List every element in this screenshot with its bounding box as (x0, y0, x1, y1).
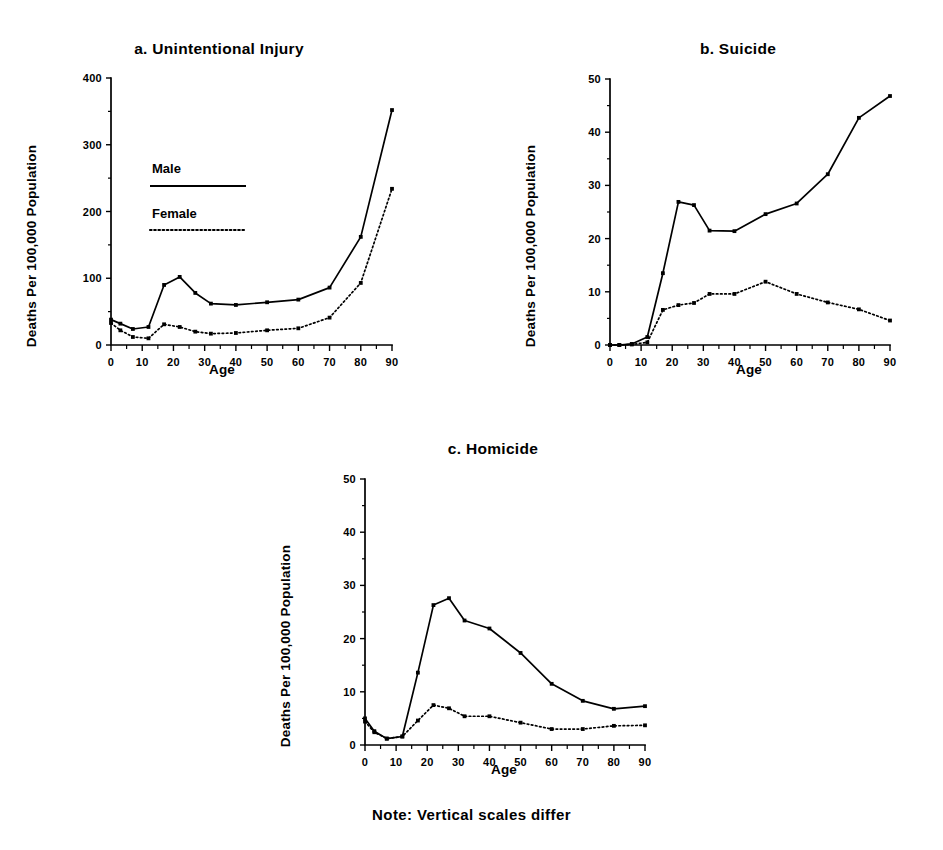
data-point-c-male-6 (447, 596, 451, 600)
plot-area-b: 010203040500102030405060708090 (588, 73, 896, 368)
y-tick-label-b-5: 50 (588, 73, 601, 85)
data-point-c-female-7 (463, 714, 467, 718)
data-point-b-male-4 (661, 271, 665, 275)
data-point-c-female-4 (416, 719, 420, 723)
x-tick-label-b-6: 60 (790, 356, 803, 368)
data-point-a-female-12 (359, 281, 363, 285)
x-tick-label-b-8: 80 (852, 356, 865, 368)
data-point-c-female-12 (612, 724, 616, 728)
data-point-c-female-6 (447, 706, 451, 710)
data-point-a-female-13 (390, 187, 394, 191)
data-point-b-female-8 (733, 292, 737, 296)
data-point-c-female-10 (550, 727, 554, 731)
data-point-b-male-9 (764, 212, 768, 216)
y-tick-label-c-4: 40 (343, 526, 356, 538)
data-point-a-female-1 (118, 328, 122, 332)
data-point-b-female-12 (857, 307, 861, 311)
data-point-a-female-6 (193, 330, 197, 334)
data-point-b-female-9 (764, 280, 768, 284)
data-point-a-female-9 (265, 328, 269, 332)
data-point-b-female-11 (826, 301, 830, 305)
x-tick-label-c-6: 60 (545, 756, 558, 768)
series-line-c-female (365, 705, 645, 739)
series-line-b-female (610, 282, 890, 345)
data-point-c-male-10 (550, 682, 554, 686)
data-point-a-male-3 (147, 325, 151, 329)
data-point-a-male-11 (328, 286, 332, 290)
x-tick-label-b-0: 0 (607, 356, 613, 368)
plot-area-a: 01002003004000102030405060708090MaleFema… (83, 72, 399, 368)
data-point-b-female-1 (617, 343, 621, 347)
y-axis-label-b: Deaths Per 100,000 Population (523, 145, 538, 347)
data-point-a-male-12 (359, 235, 363, 239)
legend-label-male: Male (152, 161, 181, 176)
data-point-c-female-8 (488, 714, 492, 718)
data-point-c-female-5 (432, 703, 436, 707)
data-point-b-female-4 (661, 308, 665, 312)
axis-lines-c (365, 479, 645, 745)
x-tick-label-b-2: 20 (666, 356, 679, 368)
plot-area-c: 010203040500102030405060708090 (343, 473, 651, 768)
data-point-a-female-8 (234, 331, 238, 335)
data-point-a-female-3 (147, 336, 151, 340)
data-point-a-male-5 (178, 275, 182, 279)
legend-label-female: Female (152, 206, 197, 221)
chart-svg-c: c. Homicide Deaths Per 100,000 Populatio… (268, 436, 688, 786)
y-tick-label-b-4: 40 (588, 126, 601, 138)
data-point-b-female-0 (608, 343, 612, 347)
chart-panel-b: b. Suicide Deaths Per 100,000 Population… (513, 36, 933, 386)
x-tick-label-a-7: 70 (323, 356, 336, 368)
x-tick-label-c-3: 30 (452, 756, 465, 768)
y-tick-label-b-0: 0 (595, 339, 601, 351)
data-point-b-female-2 (630, 343, 634, 347)
chart-title-a: a. Unintentional Injury (134, 40, 304, 57)
data-point-c-male-8 (488, 627, 492, 631)
y-tick-label-c-5: 50 (343, 473, 356, 485)
data-point-a-female-5 (178, 325, 182, 329)
chart-svg-b: b. Suicide Deaths Per 100,000 Population… (513, 36, 933, 386)
data-point-c-female-13 (643, 723, 647, 727)
y-tick-label-b-2: 20 (588, 233, 601, 245)
data-point-c-male-9 (519, 651, 523, 655)
data-point-b-female-13 (888, 319, 892, 323)
y-tick-label-a-3: 300 (83, 139, 102, 151)
data-point-a-male-13 (390, 108, 394, 112)
x-tick-label-b-5: 50 (759, 356, 772, 368)
data-point-c-female-3 (400, 735, 404, 739)
x-tick-label-a-0: 0 (108, 356, 114, 368)
data-point-a-male-9 (265, 300, 269, 304)
y-tick-label-c-2: 20 (343, 633, 356, 645)
data-point-a-female-4 (162, 322, 166, 326)
chart-svg-a: a. Unintentional Injury Deaths Per 100,0… (14, 36, 434, 386)
chart-panel-a: a. Unintentional Injury Deaths Per 100,0… (14, 36, 434, 386)
data-point-a-female-7 (209, 332, 213, 336)
x-tick-label-c-1: 10 (390, 756, 403, 768)
x-tick-label-a-9: 90 (386, 356, 399, 368)
x-tick-label-c-2: 20 (421, 756, 434, 768)
chart-title-c: c. Homicide (448, 440, 538, 457)
data-point-c-male-11 (581, 699, 585, 703)
data-point-b-female-6 (692, 301, 696, 305)
x-tick-label-b-9: 90 (884, 356, 897, 368)
data-point-b-male-10 (795, 202, 799, 206)
data-point-b-female-3 (645, 340, 649, 344)
data-point-a-male-0 (109, 318, 113, 322)
y-tick-label-c-0: 0 (350, 739, 356, 751)
data-point-b-male-6 (692, 203, 696, 207)
figure-note: Note: Vertical scales differ (0, 806, 943, 823)
x-tick-label-c-0: 0 (362, 756, 368, 768)
data-point-b-male-7 (708, 229, 712, 233)
x-tick-label-b-1: 10 (635, 356, 648, 368)
x-tick-label-c-4: 40 (483, 756, 496, 768)
legend-a: MaleFemale (150, 161, 246, 230)
data-point-a-female-0 (109, 321, 113, 325)
y-axis-label-c: Deaths Per 100,000 Population (278, 545, 293, 747)
figure-container: a. Unintentional Injury Deaths Per 100,0… (0, 0, 943, 850)
data-point-c-female-11 (581, 727, 585, 731)
chart-panel-c: c. Homicide Deaths Per 100,000 Populatio… (268, 436, 688, 786)
data-point-c-male-13 (643, 704, 647, 708)
x-tick-label-b-7: 70 (821, 356, 834, 368)
x-tick-label-b-4: 40 (728, 356, 741, 368)
y-tick-label-a-0: 0 (96, 339, 102, 351)
x-tick-label-a-3: 30 (198, 356, 211, 368)
